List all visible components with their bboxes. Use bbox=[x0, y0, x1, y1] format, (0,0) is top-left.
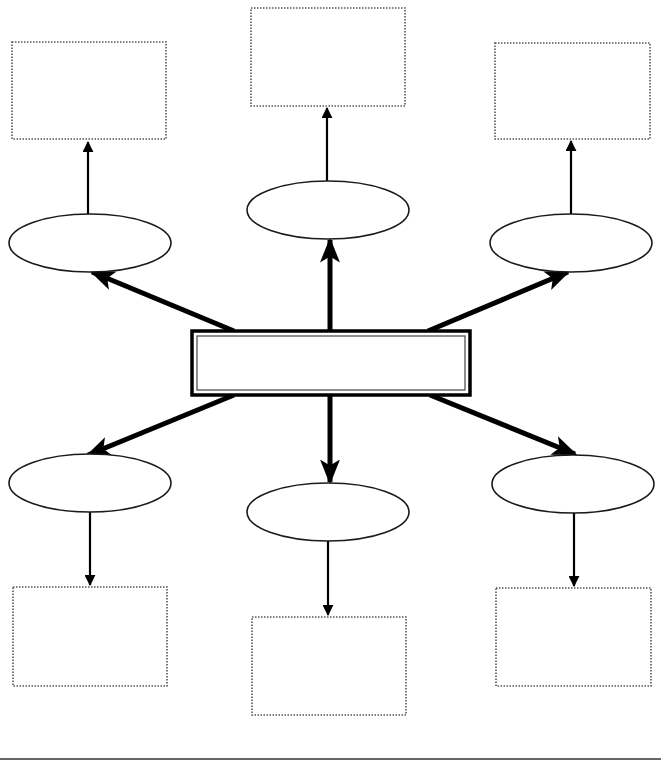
dotted-box-border bbox=[496, 588, 651, 686]
thick-arrow-bottom-right bbox=[430, 395, 575, 454]
main-topic-box[interactable] bbox=[192, 331, 470, 395]
detail-box-bottom-right[interactable] bbox=[496, 588, 651, 686]
subtopic-ellipse-top-left[interactable] bbox=[9, 214, 171, 272]
detail-box-bottom-center[interactable] bbox=[252, 617, 406, 715]
detail-box-top-right[interactable] bbox=[495, 43, 650, 139]
dotted-box-border bbox=[13, 587, 167, 686]
dotted-box-border bbox=[251, 8, 405, 106]
subtopic-ellipse-top-right[interactable] bbox=[490, 214, 652, 272]
ellipse-shape bbox=[9, 214, 171, 272]
ellipse-shape bbox=[492, 455, 654, 513]
subtopic-ellipse-bottom-center[interactable] bbox=[247, 483, 409, 541]
ellipse-shape bbox=[247, 181, 409, 239]
main-topic-inner-border bbox=[197, 336, 465, 390]
subtopic-ellipse-bottom-right[interactable] bbox=[492, 455, 654, 513]
thick-arrow-top-right bbox=[428, 272, 568, 331]
dotted-box-border bbox=[252, 617, 406, 715]
ellipse-shape bbox=[247, 483, 409, 541]
dotted-box-border bbox=[12, 42, 166, 139]
detail-box-top-center[interactable] bbox=[251, 8, 405, 106]
subtopic-ellipse-bottom-left[interactable] bbox=[9, 454, 171, 512]
spider-diagram bbox=[0, 0, 661, 765]
thick-arrow-bottom-left bbox=[88, 395, 234, 455]
subtopic-ellipse-top-center[interactable] bbox=[247, 181, 409, 239]
detail-box-bottom-left[interactable] bbox=[13, 587, 167, 686]
dotted-box-border bbox=[495, 43, 650, 139]
ellipse-shape bbox=[490, 214, 652, 272]
detail-box-top-left[interactable] bbox=[12, 42, 166, 139]
thick-arrow-top-left bbox=[92, 272, 234, 331]
ellipse-shape bbox=[9, 454, 171, 512]
